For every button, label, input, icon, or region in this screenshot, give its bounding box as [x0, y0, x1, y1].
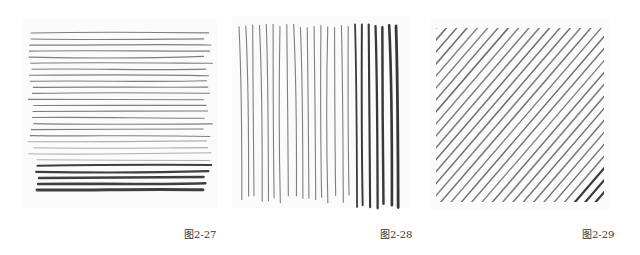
hatch-stroke — [523, 28, 640, 202]
hatch-stroke — [296, 28, 446, 202]
figure-caption-2-29: 图2-29 — [582, 226, 614, 241]
hatch-stroke — [286, 28, 436, 202]
hatch-stroke — [596, 28, 640, 202]
diagonal-hatching-drawing — [0, 0, 640, 215]
figure-2-29: 图2-29 — [0, 0, 640, 255]
hatch-stroke — [565, 28, 640, 202]
hatch-stroke — [585, 28, 640, 202]
hatch-stroke — [606, 28, 640, 202]
hatch-stroke — [307, 28, 457, 202]
hatch-stroke — [575, 28, 640, 202]
hatch-stroke — [503, 28, 640, 202]
